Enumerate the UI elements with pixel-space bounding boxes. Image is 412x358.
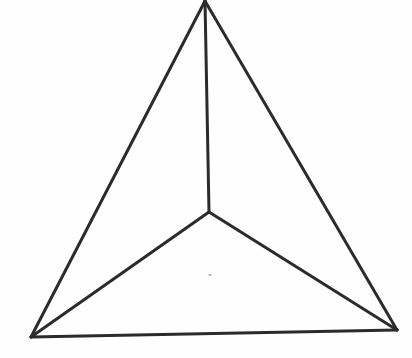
edge-apex-center [205,1,209,212]
edge-apex-left [31,1,205,337]
edge-center-right [209,212,397,330]
edge-apex-right [205,1,397,330]
tetrahedron-drawing [0,0,412,358]
paper-speck [208,274,212,276]
tetrahedron-svg [0,0,412,358]
edge-center-left [31,212,209,337]
edge-left-right [31,330,397,337]
